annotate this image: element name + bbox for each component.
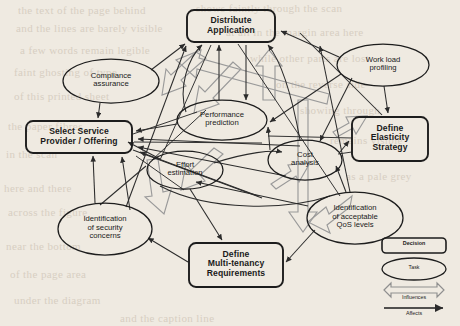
affects-effort-to-cost <box>214 151 282 163</box>
affects-cost-to-performance <box>268 127 270 150</box>
affects-edges <box>93 31 388 262</box>
legend-task-shape <box>382 258 446 280</box>
decision-nodes <box>26 10 428 287</box>
affects-compliance-to-select <box>98 103 100 118</box>
crossing-line-2 <box>134 142 262 143</box>
affects-multitenancy-to-security <box>148 238 188 262</box>
affects-edge-crossings <box>133 44 352 196</box>
crossing-line-1 <box>133 112 197 134</box>
legend <box>382 238 446 308</box>
legend-influences-shape <box>384 283 444 297</box>
legend-decision-shape <box>382 238 446 253</box>
task-node-identification-of-security-concerns[interactable] <box>58 203 152 255</box>
affects-effort-to-multitenancy <box>190 189 222 240</box>
decision-node-select-service-provider[interactable] <box>26 121 132 153</box>
task-node-compliance-assurance[interactable] <box>63 59 159 103</box>
influence-arrow-workload-to-distribute <box>176 50 329 104</box>
task-nodes <box>58 44 429 255</box>
affects-security-to-select <box>93 156 95 203</box>
diagram-canvas: the text of the page behindshows faintly… <box>0 0 460 326</box>
affects-select-to-security <box>100 166 146 205</box>
influence-arrow-qos-to-cost <box>271 163 310 189</box>
affects-qos-to-multitenancy <box>286 230 315 262</box>
decision-node-define-multi-tenancy-requirements[interactable] <box>189 243 283 287</box>
influence-arrow-distribute-to-multitenancy <box>289 100 317 232</box>
affects-workload-to-distribute2 <box>281 31 339 57</box>
influence-diagram-graphics <box>0 0 460 326</box>
task-node-cost-analysis[interactable] <box>268 140 342 180</box>
affects-workload-to-elasticity <box>384 86 388 113</box>
task-node-performance-prediction[interactable] <box>177 100 267 140</box>
decision-node-define-elasticity-strategy[interactable] <box>352 117 428 161</box>
affects-select-to-right <box>133 150 262 198</box>
task-node-identification-of-acceptable-qos-levels[interactable] <box>307 192 403 244</box>
task-node-work-load-profiling[interactable] <box>337 44 429 86</box>
decision-node-distribute-application[interactable] <box>187 10 275 42</box>
